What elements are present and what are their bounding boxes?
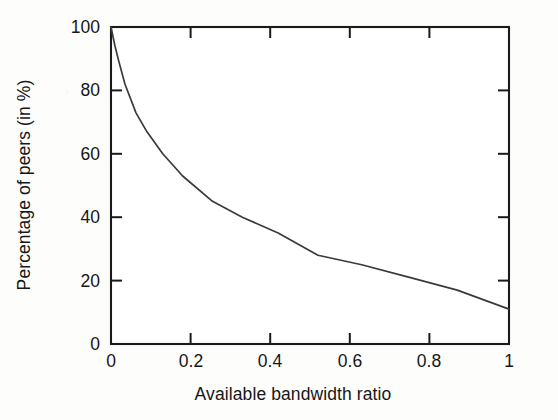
plot-frame [111, 27, 509, 344]
plot-frame-rect [111, 27, 509, 344]
x-tick-label-0p6: 0.6 [320, 351, 380, 372]
y-tick-label-80: 80 [40, 80, 100, 101]
y-tick-label-100: 100 [40, 17, 100, 38]
y-axis-title: Percentage of peers (in %) [14, 25, 35, 345]
y-tick-label-20: 20 [40, 271, 100, 292]
figure-canvas: 100 80 60 40 20 0 0 0.2 0.4 0.6 0.8 1 Av… [0, 0, 558, 420]
y-tick-label-60: 60 [40, 144, 100, 165]
x-tick-label-0p4: 0.4 [240, 351, 300, 372]
x-tick-label-0: 0 [81, 351, 141, 372]
x-tick-label-0p8: 0.8 [399, 351, 459, 372]
x-tick-label-0p2: 0.2 [161, 351, 221, 372]
y-tick-label-40: 40 [40, 207, 100, 228]
x-tick-label-1: 1 [479, 351, 539, 372]
x-axis-title: Available bandwidth ratio [0, 384, 558, 405]
